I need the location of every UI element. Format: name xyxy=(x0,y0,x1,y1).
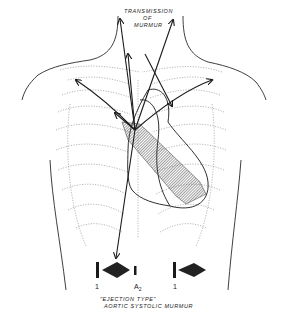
a2-label: A2 xyxy=(134,283,141,292)
s1-right-bar xyxy=(173,262,176,278)
title-line2: OF xyxy=(143,15,152,22)
caption-line1: "EJECTION TYPE" xyxy=(100,296,156,303)
title-line3: MURMUR xyxy=(134,22,163,29)
s1-right-label: 1 xyxy=(173,283,177,290)
title-line1: TRANSMISSION xyxy=(124,8,173,15)
s1-left-label: 1 xyxy=(95,283,99,290)
a2-subscript: 2 xyxy=(139,286,142,292)
caption-line2: AORTIC SYSTOLIC MURMUR xyxy=(104,303,193,310)
a2-bar xyxy=(134,266,137,275)
rib-cage xyxy=(56,66,226,246)
holosystolic-murmur-diamond xyxy=(178,263,206,277)
chest-diagram xyxy=(0,0,281,326)
s1-left-bar xyxy=(96,262,99,278)
ejection-murmur-diamond xyxy=(102,262,130,278)
phonocardiogram xyxy=(96,262,206,278)
